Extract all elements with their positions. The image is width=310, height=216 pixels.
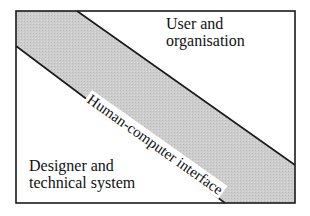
designer-system-line2: technical system — [29, 174, 135, 191]
user-organisation-line2: organisation — [166, 32, 245, 49]
designer-system-label: Designer and technical system — [29, 157, 135, 191]
designer-system-line1: Designer and — [29, 157, 135, 174]
user-organisation-line1: User and — [166, 15, 245, 32]
user-organisation-label: User and organisation — [166, 15, 245, 49]
